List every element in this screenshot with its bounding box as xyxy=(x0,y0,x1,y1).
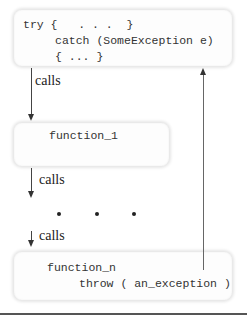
exception-return-arrow-line xyxy=(203,74,204,270)
call-arrow-1-line xyxy=(31,68,32,116)
call-arrow-1-head-icon xyxy=(28,114,34,121)
try-line: try { . . . } xyxy=(23,18,133,31)
function-n-label: function_n xyxy=(47,261,116,274)
function-n-box xyxy=(14,252,232,300)
catch-body-line: { ... } xyxy=(55,50,103,63)
ellipsis-dot-1 xyxy=(57,212,61,216)
calls-label-1: calls xyxy=(35,73,61,89)
calls-label-3: calls xyxy=(39,228,65,244)
call-arrow-3-head-icon xyxy=(28,240,34,247)
calls-label-2: calls xyxy=(39,172,65,188)
call-arrow-2-head-icon xyxy=(28,191,34,198)
bottom-divider xyxy=(0,313,247,315)
ellipsis-dot-3 xyxy=(132,212,136,216)
exception-return-arrow-head-icon xyxy=(200,68,206,75)
function-1-label: function_1 xyxy=(49,129,118,142)
ellipsis-dot-2 xyxy=(95,212,99,216)
throw-line: throw ( an_exception ) xyxy=(79,277,231,290)
catch-line: catch (SomeException e) xyxy=(55,34,214,47)
call-arrow-2-line xyxy=(31,168,32,193)
